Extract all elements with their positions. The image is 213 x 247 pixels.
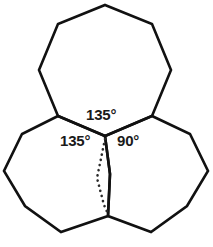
octagon-figure: 135° 135° 90°	[0, 0, 213, 247]
angle-label-top: 135°	[86, 107, 116, 122]
octagon-diagram-svg	[0, 0, 213, 247]
angle-label-right: 90°	[117, 133, 139, 148]
left-octagon	[4, 116, 110, 232]
caption-strip	[0, 237, 213, 247]
angle-label-left: 135°	[60, 133, 90, 148]
